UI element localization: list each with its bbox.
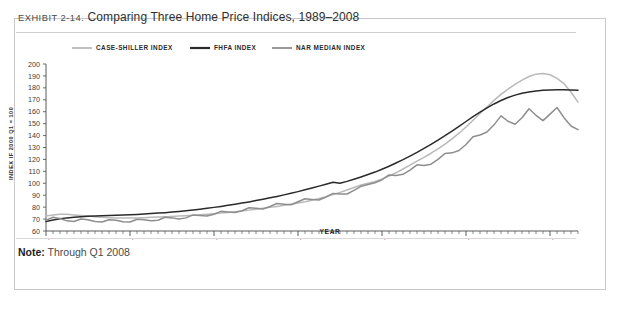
y-tick-label: 150 [28, 119, 40, 128]
x-tick-label: 1998 Q1 [294, 239, 303, 240]
x-tick-label: 1992 Q1 [126, 239, 135, 240]
legend-label: FHFA INDEX [214, 44, 257, 51]
y-tick-label: 110 [29, 167, 40, 176]
series-line-case-shiller-index [46, 74, 578, 219]
y-tick-label: 140 [28, 131, 40, 140]
page-title: EXHIBIT 2-14. Comparing Three Home Price… [18, 10, 558, 28]
y-tick-label: 90 [32, 191, 40, 200]
x-tick-label: 1989 Q1 [42, 239, 51, 240]
x-tick-label: 2004 Q1 [462, 239, 471, 240]
series-line-nar-median-index [46, 108, 578, 223]
y-tick-label: 160 [28, 107, 40, 116]
legend-label: NAR MEDIAN INDEX [296, 44, 366, 51]
price-index-line-chart: CASE-SHILLER INDEXFHFA INDEXNAR MEDIAN I… [0, 30, 592, 240]
x-tick-label: 2001 Q1 [378, 239, 387, 240]
chart-plot-area: CASE-SHILLER INDEXFHFA INDEXNAR MEDIAN I… [0, 30, 592, 240]
note-text: Through Q1 2008 [48, 246, 130, 258]
x-axis-title: YEAR [319, 228, 340, 235]
y-tick-label: 60 [32, 227, 40, 236]
y-tick-label: 130 [28, 143, 40, 152]
chart-legend: CASE-SHILLER INDEXFHFA INDEXNAR MEDIAN I… [72, 44, 366, 51]
y-axis: 6070809010011012013014015016017018019020… [28, 60, 46, 236]
legend-label: CASE-SHILLER INDEX [96, 44, 173, 51]
y-tick-label: 180 [28, 83, 40, 92]
y-tick-label: 190 [28, 72, 40, 81]
y-tick-label: 70 [32, 215, 40, 224]
x-tick-label: 1995 Q1 [210, 239, 219, 240]
note-divider [16, 238, 576, 239]
y-tick-label: 120 [28, 155, 40, 164]
y-tick-label: 200 [28, 60, 40, 69]
exhibit-title-text: Comparing Three Home Price Indices, 1989… [88, 10, 360, 24]
chart-series [46, 74, 578, 223]
y-tick-label: 100 [28, 179, 40, 188]
y-tick-label: 170 [28, 95, 40, 104]
y-axis-title: INDEX IF 2000 Q1 = 100 [8, 107, 14, 180]
note-label: Note: [18, 246, 45, 258]
x-tick-label: 2007 Q1 [546, 239, 555, 240]
series-line-fhfa-index [46, 90, 578, 222]
y-tick-label: 80 [32, 203, 40, 212]
exhibit-label: EXHIBIT 2-14. [18, 13, 84, 23]
chart-note: Note: Through Q1 2008 [18, 246, 130, 258]
